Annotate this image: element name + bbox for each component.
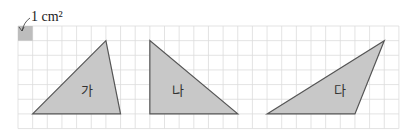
triangle-label: 다 [334, 83, 346, 98]
triangle-label: 가 [81, 83, 93, 98]
triangle-label: 나 [172, 83, 184, 98]
unit-label: 1 cm² [31, 9, 63, 24]
grid-diagram: 1 cm² 가나다 [0, 0, 414, 140]
